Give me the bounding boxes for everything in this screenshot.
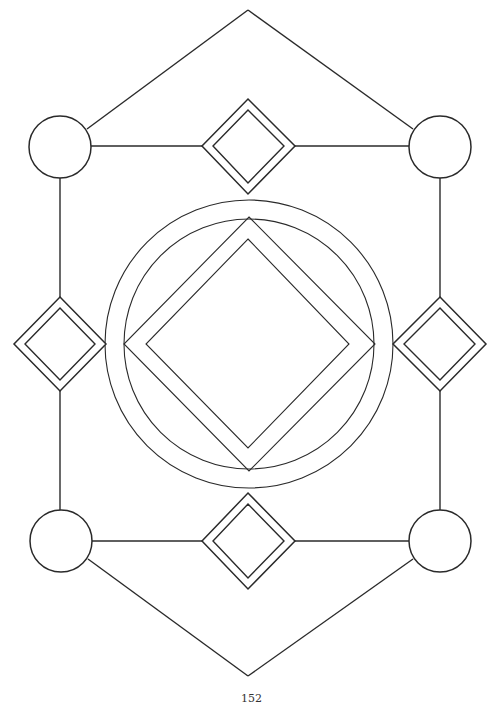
diamond-bottom (202, 493, 295, 589)
inner-ring (124, 219, 374, 469)
frame-top-left-edge (87, 10, 248, 129)
edge-diamonds (14, 99, 486, 589)
circle-top-left (29, 116, 91, 178)
central-rings (105, 200, 393, 488)
diamond-right (393, 297, 486, 391)
frame-top-right-edge (248, 10, 413, 129)
frame-bottom-right-edge (248, 559, 413, 676)
circle-top-right (409, 116, 471, 178)
circle-bottom-left (30, 510, 92, 572)
page-number: 152 (0, 692, 503, 705)
outer-ring (105, 200, 393, 488)
diamond-top (202, 99, 295, 194)
mandala-figure (0, 0, 503, 717)
diamond-left (14, 297, 106, 391)
frame-bottom-left-edge (88, 559, 248, 676)
circle-bottom-right (409, 510, 471, 572)
central-diamond-inner (146, 239, 349, 448)
